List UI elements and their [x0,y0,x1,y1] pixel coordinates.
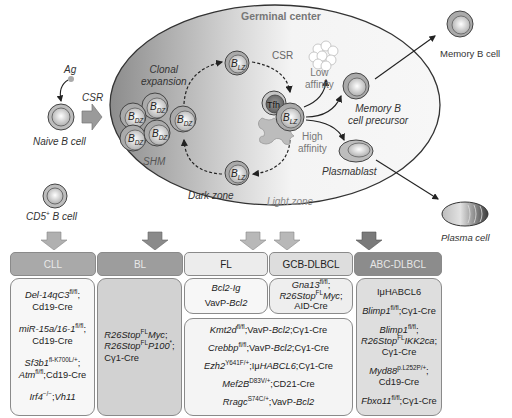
memory-b-precursor-label: Memory B cell precursor [348,103,408,127]
abc-model-4: Myd88p.L252P/+; Cd19-Cre [369,366,428,388]
header-abc-dlbcl: ABC-DLBCL [354,252,442,276]
header-gcb-dlbcl: GCB-DLBCL [269,252,353,276]
dark-zone-label: Dark zone [188,190,234,201]
shm-label: SHM [143,156,165,167]
plasma-cell-label: Plasma cell [441,232,490,243]
cll-model-2: miR-15a/16-1fl/fl; Cd19-Cre [19,324,86,347]
abc-model-3: Blimp1fl/fl; R26StopFLIKK2ca; Cγ1-Cre [361,325,437,358]
header-fl: FL [184,252,268,276]
blz-bottom-cell-icon: BLZ [225,161,249,185]
plasmablast-icon [339,140,373,162]
germinal-center-title: Germinal center [241,10,321,22]
header-cll: CLL [10,252,96,276]
gcb-model-1: Gna13fl/fl; R26StopFLMyc; AID-Cre [279,280,342,312]
blz-main-cell-icon: BLZ [276,103,304,131]
antigen-dot-icon [68,76,74,82]
abc-model-2: Blimp1fl/fl;Cγ1-Cre [362,306,436,317]
cd5-b-cell-icon [43,184,67,208]
cll-models-box: Del-14qC3fl/fl; Cd19-Cre miR-15a/16-1fl/… [10,278,95,416]
header-bl: BL [97,252,183,276]
ag-label: Ag [64,64,76,75]
svg-text:Tfh: Tfh [267,100,280,110]
fl-model-1: Bcl2-Ig [212,283,241,295]
light-zone-label: Light zone [267,196,313,207]
csr-inner-label: CSR [272,50,293,61]
plasma-cell-icon [442,202,488,226]
cll-model-1: Del-14qC3fl/fl; Cd19-Cre [25,290,80,313]
shared-model-5: RragcS74C/+;VavP-Bcl2 [223,397,314,409]
down-arrow-fl-icon [240,232,266,250]
shared-model-2: Crebbpfl/fl;VavP-Bcl2;Cγ1-Cre [208,343,329,355]
fl-models-box: Bcl2-Ig VavP-Bcl2 [184,278,268,314]
down-arrow-gcb-icon [274,232,300,250]
low-affinity-label: Low affinity [305,67,334,91]
clonal-expansion-label: Clonal expansion [141,64,187,88]
down-arrow-bl-icon [142,232,168,250]
shared-model-4: Mef2BD83V/+;CD21-Cre [222,379,315,391]
abc-models-box: IμHABCL6 Blimp1fl/fl;Cγ1-Cre Blimp1fl/fl… [356,278,442,416]
memory-b-cell-icon [447,11,473,37]
naive-b-cell-icon [48,104,74,130]
cll-model-3: Sf3b1fl-K700L/+; Atmfl/fl;Cd19-Cre [19,358,86,381]
shared-model-3: Ezh2Y641F/+;IμHABCL6;Cγ1-Cre [204,361,333,373]
bl-models-box: R26StopFLMyc; R26StopFLP100*; Cγ1-Cre [97,278,182,416]
csr-block-arrow-icon [82,104,102,130]
down-arrow-cll-icon [41,232,67,250]
naive-b-cell-label: Naive B cell [33,136,86,147]
antigen-arrow-icon [60,80,68,101]
csr-outer-label: CSR [82,92,103,103]
memory-b-cell-label: Memory B cell [440,48,500,59]
bl-model-1: R26StopFLMyc; R26StopFLP100*; Cγ1-Cre [104,330,174,365]
blz-top-cell-icon: BLZ [225,51,249,75]
down-arrow-abc-icon [356,232,382,250]
fl-gcb-shared-models-box: Kmt2dfl/fl;VavP-Bcl2;Cγ1-Cre Crebbpfl/fl… [184,318,353,416]
abc-model-5: Fbxo11fl/fl;Cγ1-Cre [361,396,437,407]
shared-model-1: Kmt2dfl/fl;VavP-Bcl2;Cγ1-Cre [210,325,327,337]
abc-model-1: IμHABCL6 [377,287,421,298]
cll-model-4: Irf4−/−;Vh11 [29,392,75,404]
high-affinity-label: High affinity [298,131,327,155]
fl-model-2: VavP-Bcl2 [205,298,248,310]
gcb-models-box: Gna13fl/fl; R26StopFLMyc; AID-Cre [269,278,353,314]
memory-b-precursor-icon [343,73,369,99]
cd5-b-cell-label: CD5+ B cell [26,211,77,222]
plasmablast-label: Plasmablast [322,166,376,177]
